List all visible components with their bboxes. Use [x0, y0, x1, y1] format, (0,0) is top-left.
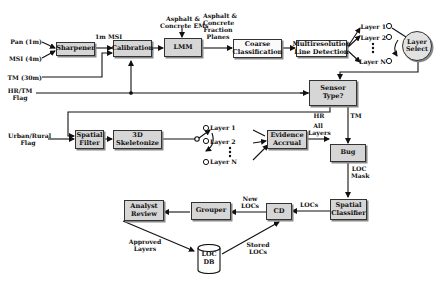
label-tm: TM	[350, 112, 362, 119]
sensor-type-block[interactable]: SensorType?	[309, 80, 357, 106]
grouper-block[interactable]: Grouper	[191, 202, 231, 220]
hrtm-flag-label: HR/TMFlag	[6, 87, 34, 101]
urban-rural-flag-label: Urban/RuralFlag	[8, 132, 48, 146]
label-new-locs: NewLOCs	[240, 195, 260, 209]
pan-input-label: Pan (1m)	[8, 38, 42, 45]
coarse-classification-block[interactable]: CoarseClassification	[233, 39, 282, 58]
loc-db-cylinder[interactable]: LOCDB	[197, 244, 221, 274]
spatial-classifier-block[interactable]: SpatialClassifier	[330, 199, 367, 220]
multiresolution-line-detection-block[interactable]: MultiresolutionLine Detection	[296, 40, 347, 57]
label-1m-msi: 1m MSI	[95, 33, 115, 40]
spatial-filter-block[interactable]: SpatialFilter	[75, 130, 104, 149]
loc-db-label: LOCDB	[197, 251, 221, 266]
tm-input-label: TM (30m)	[4, 74, 42, 81]
mid-layer-2-label: Layer 2	[210, 138, 240, 145]
sharpener-block[interactable]: Sharpener	[56, 42, 95, 56]
label-approved-layers: ApprovedLayers	[128, 238, 162, 252]
calibration-block[interactable]: Calibration	[113, 40, 152, 57]
msi-input-label: MSI (4m)	[6, 55, 42, 62]
layer-select-node[interactable]: LayerSelect	[402, 31, 432, 61]
bug-block[interactable]: Bug	[330, 144, 366, 162]
label-all-layers: AllLayers	[308, 122, 328, 136]
evidence-accrual-block[interactable]: EvidenceAccrual	[267, 130, 307, 149]
label-locs: LOCs	[300, 201, 318, 208]
label-hr: HR	[313, 112, 325, 119]
cd-block[interactable]: CD	[266, 203, 292, 220]
analyst-review-block[interactable]: AnalystReview	[124, 200, 164, 221]
label-stored-locs: StoredLOCs	[246, 241, 270, 255]
top-layer-2-label: Layer 2	[360, 34, 386, 41]
label-loc-mask: LOCMask	[351, 165, 367, 179]
3d-skeletonize-block[interactable]: 3DSkeletonize	[113, 130, 162, 149]
mid-layer-1-label: Layer 1	[210, 124, 240, 131]
mid-layer-n-label: Layer N	[210, 158, 240, 165]
lmm-block[interactable]: LMM	[164, 38, 202, 57]
top-layer-n-label: Layer N	[358, 58, 386, 65]
top-layer-1-label: Layer 1	[360, 23, 386, 30]
label-fraction-planes: Asphalt &ConcreteFractionPlanes	[203, 12, 233, 41]
label-asphalt-concrete-ems: Asphalt &Concrete EMs	[160, 15, 206, 29]
